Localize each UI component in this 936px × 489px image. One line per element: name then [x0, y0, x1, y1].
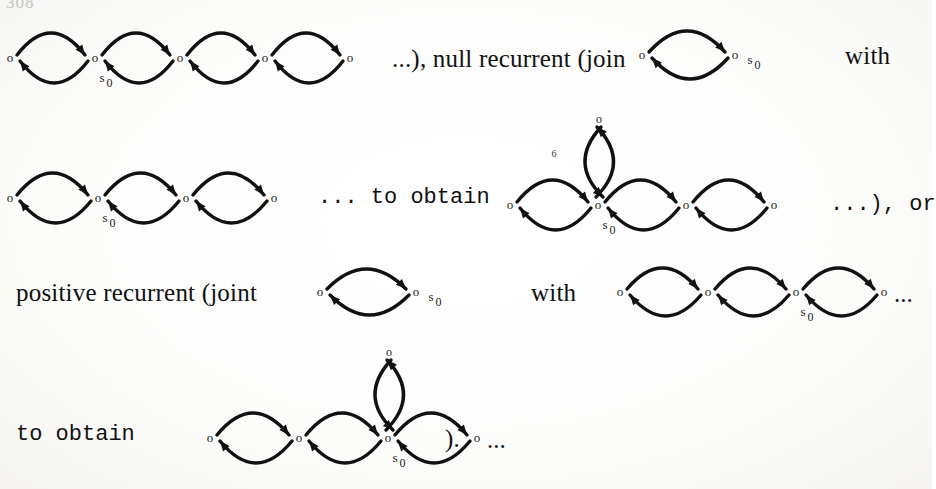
- state-node: o: [271, 190, 278, 206]
- text-with-1: with: [845, 43, 890, 68]
- start-state-letter: s: [747, 52, 752, 67]
- state-node: o: [705, 284, 712, 300]
- chain-4-nodes-vertical-loop-line2: ooooo6s0: [496, 95, 820, 257]
- state-node: o: [617, 284, 624, 300]
- state-node: o: [793, 284, 800, 300]
- text-to-obtain-2: to obtain: [16, 424, 135, 446]
- start-state-label: s0: [602, 217, 613, 233]
- state-node: o: [474, 430, 481, 446]
- start-state-subscript: 0: [808, 310, 814, 324]
- chain-5-nodes-line1-arcs: [0, 16, 396, 110]
- state-node-loop-top: o: [596, 112, 602, 127]
- state-node: o: [683, 197, 690, 213]
- chain-5-nodes-line1: ooooos0: [0, 16, 396, 110]
- start-state-subscript: 0: [400, 456, 406, 470]
- chain-4-nodes-line2: oooos0: [0, 156, 320, 250]
- state-node: o: [177, 50, 184, 66]
- state-node: o: [317, 284, 324, 300]
- state-node: o: [262, 50, 269, 66]
- text-null-recurrent-join: ...), null recurrent (join: [392, 46, 626, 71]
- start-state-label: s0: [747, 52, 758, 68]
- text-with-2: with: [531, 280, 576, 305]
- state-node: o: [183, 190, 190, 206]
- start-state-letter: s: [428, 289, 433, 304]
- state-node: o: [7, 50, 14, 66]
- state-node: o: [881, 284, 888, 300]
- state-node: o: [595, 197, 602, 213]
- stray-ink-mark: 6: [552, 148, 557, 159]
- state-node: o: [385, 430, 392, 446]
- text-or: ...), or: [830, 194, 936, 216]
- chain-4-nodes-line3: oooos0...: [606, 250, 930, 344]
- state-node: o: [207, 430, 214, 446]
- state-node: o: [95, 190, 102, 206]
- start-state-letter: s: [800, 304, 805, 319]
- start-state-letter: s: [602, 217, 607, 232]
- chain-4-nodes-vertical-loop-line2-arcs: [496, 95, 820, 257]
- start-state-label: s0: [102, 210, 113, 226]
- start-state-label: s0: [800, 304, 811, 320]
- start-state-subscript: 0: [110, 216, 116, 230]
- trailing-ellipsis: ...: [487, 426, 506, 454]
- state-node: o: [639, 47, 646, 63]
- start-state-subscript: 0: [610, 223, 616, 237]
- state-node-loop-top: o: [386, 345, 392, 360]
- state-node: o: [507, 197, 514, 213]
- start-state-label: s0: [392, 450, 403, 466]
- start-state-letter: s: [392, 450, 397, 465]
- text-to-obtain-1: ... to obtain: [318, 187, 490, 209]
- state-node: o: [7, 190, 14, 206]
- state-node: o: [413, 284, 420, 300]
- start-state-letter: s: [99, 70, 104, 85]
- start-state-label: s0: [99, 70, 110, 86]
- chain-4-nodes-vertical-loop-line4-arcs: [196, 328, 523, 489]
- two-node-join-line1: oos0: [628, 13, 781, 107]
- start-state-label: s0: [428, 289, 439, 305]
- trailing-ellipsis: ...: [894, 280, 913, 308]
- page-folio-number: 308: [6, 0, 35, 13]
- start-state-subscript: 0: [107, 76, 113, 90]
- start-state-subscript: 0: [436, 295, 442, 309]
- start-state-letter: s: [102, 210, 107, 225]
- state-node: o: [771, 197, 778, 213]
- state-node: o: [732, 47, 739, 63]
- chain-4-nodes-vertical-loop-line4: ooooos0...: [196, 328, 523, 489]
- start-state-subscript: 0: [755, 58, 761, 72]
- state-node: o: [347, 50, 354, 66]
- text-positive-recurrent-joint: positive recurrent (joint: [16, 280, 257, 305]
- state-node: o: [296, 430, 303, 446]
- state-node: o: [92, 50, 99, 66]
